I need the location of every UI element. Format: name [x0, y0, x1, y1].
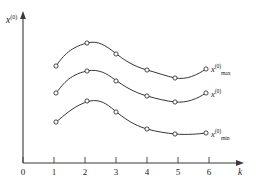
data-point: [85, 99, 89, 103]
series-label-mid: x(0): [211, 87, 221, 99]
data-point: [85, 69, 89, 73]
series-label-min-superscript: (0): [215, 128, 221, 134]
data-point: [204, 131, 208, 135]
data-point: [54, 91, 58, 95]
series-label-mid-superscript: (0): [215, 88, 221, 94]
data-point: [114, 52, 118, 56]
data-point: [85, 41, 89, 45]
x-tick-label-0: 0: [16, 167, 30, 177]
y-axis-label: x(0): [6, 12, 17, 25]
x-tick-label-2: 2: [78, 167, 92, 177]
x-axis-ticks: [23, 157, 209, 163]
data-point: [145, 68, 149, 72]
data-point: [173, 100, 177, 104]
data-point: [114, 79, 118, 83]
series-label-max: x(0)max: [211, 62, 230, 78]
figure-container: x(0) k 0 1 2 3 4 5 6 x(0)max x(0) x(0)mi…: [0, 0, 256, 188]
x-tick-label-1: 1: [47, 167, 61, 177]
x-axis-arrow-icon: [236, 160, 244, 166]
data-point: [54, 64, 58, 68]
series-path-max: [56, 42, 206, 78]
x-tick-label-5: 5: [171, 167, 185, 177]
data-point: [54, 120, 58, 124]
x-tick-label-3: 3: [109, 167, 123, 177]
series-path-mid: [56, 70, 206, 102]
series-path-min: [56, 101, 206, 135]
data-point: [204, 91, 208, 95]
series-markers-min: [54, 99, 208, 136]
y-axis-arrow-icon: [20, 11, 26, 19]
data-point: [204, 67, 208, 71]
data-point: [114, 110, 118, 114]
series-label-min: x(0)min: [211, 127, 229, 143]
series-label-min-subscript: min: [221, 135, 229, 141]
data-point: [173, 132, 177, 136]
x-tick-label-4: 4: [140, 167, 154, 177]
data-point: [173, 76, 177, 80]
series-label-max-superscript: (0): [215, 63, 221, 69]
x-tick-label-6: 6: [202, 167, 216, 177]
y-axis-label-superscript: (0): [10, 14, 17, 20]
x-axis-label: k: [238, 167, 242, 177]
series-label-max-subscript: max: [221, 70, 230, 76]
x-axis-label-text: k: [238, 167, 242, 177]
data-point: [145, 127, 149, 131]
data-point: [145, 94, 149, 98]
